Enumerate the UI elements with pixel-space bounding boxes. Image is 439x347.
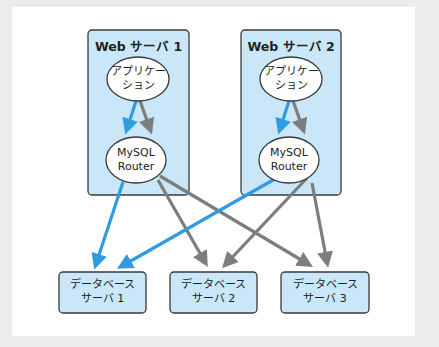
db-server-2-box [170, 272, 257, 313]
app-1-node [107, 57, 169, 101]
router-1-node [106, 137, 166, 183]
db-server-3-box [281, 272, 369, 313]
architecture-diagram [0, 0, 439, 347]
app-2-node [260, 57, 322, 101]
router-2-node [259, 137, 319, 183]
db-server-1-box [59, 272, 146, 313]
